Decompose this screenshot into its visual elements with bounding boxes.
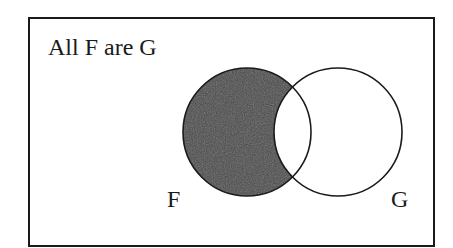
diagram-title: All F are G [48,34,157,60]
label-f: F [167,186,180,212]
venn-diagram: All F are G F G [0,0,453,248]
label-g: G [391,186,408,212]
